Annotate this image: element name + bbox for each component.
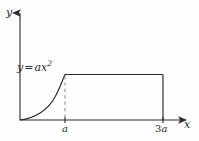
x-tick-label-3a: 3a xyxy=(155,124,167,134)
x-tick-label-a: a xyxy=(62,124,68,134)
x-axis-label: x xyxy=(184,119,190,130)
math-figure: y x y=ax2 a 3a xyxy=(0,0,199,141)
equation-equals-sign: = xyxy=(23,61,34,74)
y-axis-label: y xyxy=(6,7,12,18)
parabola-segment xyxy=(20,75,65,121)
equation-exponent: 2 xyxy=(47,59,52,68)
curve-equation-label: y=ax2 xyxy=(17,60,52,73)
equation-coefficient: ax xyxy=(34,61,47,74)
x-tick-3a-symbol: a xyxy=(161,123,167,134)
